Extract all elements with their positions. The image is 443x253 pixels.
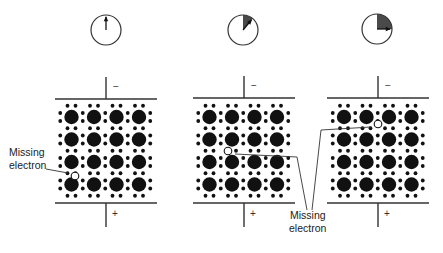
electron [126, 142, 130, 146]
electron [286, 111, 290, 115]
electron [383, 171, 387, 175]
electron [58, 142, 62, 146]
electron [257, 104, 261, 108]
electron [96, 104, 100, 108]
electron [398, 134, 402, 138]
electron [414, 104, 418, 108]
electron [133, 149, 137, 153]
electron [126, 187, 130, 191]
electron [66, 149, 70, 153]
atom [359, 155, 373, 169]
electron [241, 134, 245, 138]
electron [141, 126, 145, 130]
atom [382, 155, 396, 169]
electron [353, 179, 357, 183]
electron [66, 126, 70, 130]
electron [264, 156, 268, 160]
electron [219, 179, 223, 183]
electron [249, 149, 253, 153]
electron [271, 149, 275, 153]
negative-sign: − [113, 81, 119, 92]
electron [196, 142, 200, 146]
electron [88, 104, 92, 108]
electron [421, 156, 425, 160]
atom [132, 177, 146, 191]
electron [148, 164, 152, 168]
electron [361, 194, 365, 198]
electron [141, 104, 145, 108]
electron [74, 126, 78, 130]
electron [346, 171, 350, 175]
electron [196, 156, 200, 160]
electron [346, 104, 350, 108]
electron [196, 187, 200, 191]
panel-2: −+ [193, 15, 295, 227]
electron [74, 149, 78, 153]
electron [369, 104, 373, 108]
electron [286, 134, 290, 138]
electron [81, 134, 85, 138]
electron [414, 171, 418, 175]
electron [376, 111, 380, 115]
electron [234, 171, 238, 175]
electron [58, 111, 62, 115]
electron [353, 156, 357, 160]
electron [74, 104, 78, 108]
atom [225, 177, 239, 191]
electron [219, 187, 223, 191]
electron [103, 134, 107, 138]
electron [421, 142, 425, 146]
electron [219, 142, 223, 146]
electron [81, 187, 85, 191]
electron [257, 194, 261, 198]
electron [103, 119, 107, 123]
positive-sign: + [112, 208, 118, 219]
electron [286, 187, 290, 191]
electron [361, 149, 365, 153]
missing-electron-hole [374, 120, 382, 128]
electron [249, 171, 253, 175]
positive-sign: + [384, 208, 390, 219]
electron [226, 171, 230, 175]
electron [338, 194, 342, 198]
electron [376, 134, 380, 138]
electron [406, 149, 410, 153]
missing-electron-hole [224, 147, 232, 155]
electron [391, 126, 395, 130]
electron [241, 156, 245, 160]
label-line-2: electron [9, 159, 46, 172]
electron [204, 104, 208, 108]
electron [257, 126, 261, 130]
electron [338, 126, 342, 130]
label-line-2: electron [289, 222, 326, 235]
electron [369, 171, 373, 175]
electron [212, 149, 216, 153]
atom [270, 110, 284, 124]
atom [109, 132, 123, 146]
electron [414, 194, 418, 198]
electron [219, 134, 223, 138]
atom [270, 177, 284, 191]
electron [383, 149, 387, 153]
electron [249, 194, 253, 198]
electron [264, 111, 268, 115]
electron [279, 149, 283, 153]
electron [271, 104, 275, 108]
electron [141, 149, 145, 153]
atom [202, 110, 216, 124]
electron [406, 104, 410, 108]
electron [196, 164, 200, 168]
electron [421, 134, 425, 138]
electron [331, 156, 335, 160]
negative-sign: − [251, 80, 257, 91]
electron [119, 149, 123, 153]
electron [88, 194, 92, 198]
electron [353, 111, 357, 115]
electron [111, 149, 115, 153]
electron [279, 104, 283, 108]
electron [264, 119, 268, 123]
atom [359, 132, 373, 146]
electron [398, 111, 402, 115]
electron [103, 179, 107, 183]
positive-sign: + [250, 208, 256, 219]
